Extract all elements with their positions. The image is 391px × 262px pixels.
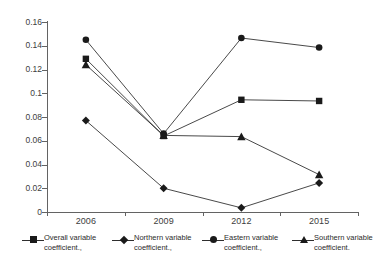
series-circle [83,35,323,137]
y-axis-tick-label: 0.08 [8,113,42,122]
square-marker-icon [30,236,37,243]
y-axis-tick-label: 0.1 [8,89,42,98]
legend-label: Eastern variablecoefficient., [224,233,290,252]
y-axis-tick-label: 0.06 [8,136,42,145]
triangle-marker-icon [300,236,308,243]
y-axis-tick-label: 0 [8,208,42,217]
legend-label: Southern variablecoefficient. [314,233,380,252]
data-point [315,170,323,178]
legend-label-line2: coefficient., [224,243,290,253]
legend-key-circle-icon [202,235,224,246]
x-axis-tick-label: 2006 [56,215,116,227]
x-axis-tick [358,212,359,216]
y-axis-tick-label: 0.04 [8,160,42,169]
series-line [86,121,319,208]
legend-label-line1: Overall variable [44,233,110,243]
legend-label: Overall variablecoefficient., [44,233,110,252]
data-point [315,179,323,187]
x-axis-tick [125,212,126,216]
x-axis-tick-label: 2009 [134,215,194,227]
y-axis-tick-label: 0.16 [8,18,42,27]
series-line [86,65,319,175]
data-point [238,97,244,103]
legend-key-diamond-icon [112,235,134,246]
data-point [83,37,90,44]
legend-label-line2: coefficient., [134,243,200,253]
square-glyph [30,236,37,243]
plot-area [47,22,358,212]
data-point [316,98,322,104]
circle-marker-icon [210,236,217,243]
legend-label-line1: Northern variable [134,233,200,243]
legend-item-diamond[interactable]: Northern variablecoefficient., [112,233,202,252]
legend-label-line2: coefficient. [314,243,380,253]
legend-item-circle[interactable]: Eastern variablecoefficient., [202,233,292,252]
data-point [238,35,245,42]
chart-legend: Overall variablecoefficient.,Northern va… [0,233,391,262]
legend-label: Northern variablecoefficient., [134,233,200,252]
legend-item-square[interactable]: Overall variablecoefficient., [22,233,112,252]
legend-label-line1: Southern variable [314,233,380,243]
x-axis-tick-label: 2012 [211,215,271,227]
series-container [47,22,358,212]
legend-label-line1: Eastern variable [224,233,290,243]
legend-key-triangle-icon [292,235,314,246]
series-diamond [82,117,323,212]
data-point [316,44,323,51]
y-axis-tick-label: 0.14 [8,41,42,50]
legend-label-line2: coefficient., [44,243,110,253]
x-axis-tick [47,212,48,216]
x-axis-tick [203,212,204,216]
series-line [86,38,319,134]
x-axis-tick [280,212,281,216]
legend-key-square-icon [22,235,44,246]
line-chart: 00.020.040.060.080.10.120.140.16 2006200… [0,0,391,262]
circle-glyph [210,236,217,243]
y-axis-tick-label: 0.02 [8,184,42,193]
series-line [86,59,319,136]
x-axis-tick-label: 2015 [289,215,349,227]
data-point [237,204,245,212]
series-square [83,56,323,140]
legend-item-triangle[interactable]: Southern variablecoefficient. [292,233,382,252]
diamond-glyph [119,235,127,243]
triangle-glyph [300,236,308,243]
y-axis-tick-label: 0.12 [8,65,42,74]
diamond-marker-icon [120,236,127,243]
